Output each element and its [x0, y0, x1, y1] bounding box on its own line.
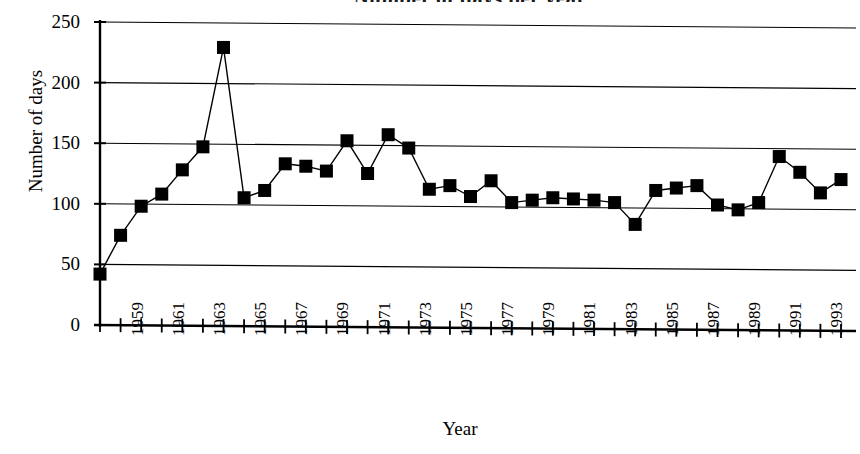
x-axis-title-text: Year [442, 418, 477, 439]
plot-area [0, 0, 860, 454]
data-point-marker [135, 200, 148, 213]
data-point-marker [464, 190, 477, 203]
data-point-marker [649, 184, 662, 197]
data-point-marker [238, 191, 251, 204]
x-tick-label: 1971 [376, 302, 393, 336]
data-point-marker [402, 142, 415, 155]
data-point-marker [155, 188, 168, 201]
x-tick-label: 1973 [417, 302, 434, 336]
x-tick-label: 1969 [334, 302, 351, 336]
data-point-marker [752, 196, 765, 209]
x-tick-label: 1977 [499, 302, 516, 336]
data-point-marker [526, 194, 539, 207]
data-point-marker [485, 174, 498, 187]
data-point-marker [361, 167, 374, 180]
data-point-marker [835, 173, 848, 186]
data-point-marker [196, 140, 209, 153]
data-point-marker [423, 183, 436, 196]
data-point-marker [382, 128, 395, 141]
data-point-marker [94, 268, 107, 281]
grid-line [100, 143, 856, 149]
data-point-marker [773, 150, 786, 163]
data-point-marker [793, 166, 806, 179]
data-point-marker [341, 134, 354, 147]
data-point-marker [588, 194, 601, 207]
data-point-marker [608, 196, 621, 209]
x-tick-label: 1959 [129, 302, 146, 336]
x-tick-label: 1987 [705, 302, 722, 336]
data-point-marker [732, 203, 745, 216]
data-point-marker [690, 179, 703, 192]
x-tick-label: 1991 [787, 302, 804, 336]
data-point-marker [443, 179, 456, 192]
chart-figure: Number of days per year Number of days 0… [0, 0, 860, 454]
data-point-marker [279, 157, 292, 170]
data-point-marker [567, 192, 580, 205]
x-tick-label: 1963 [211, 302, 228, 336]
x-tick-label: 1965 [252, 302, 269, 336]
x-tick-label: 1981 [581, 302, 598, 336]
data-point-marker [670, 182, 683, 195]
grid-line [100, 83, 856, 89]
data-point-marker [814, 186, 827, 199]
data-point-marker [114, 229, 127, 242]
grid-line [100, 22, 856, 28]
grid-line [100, 264, 856, 270]
data-point-marker [258, 184, 271, 197]
x-tick-label: 1989 [746, 302, 763, 336]
x-tick-label: 1979 [540, 302, 557, 336]
data-point-marker [299, 160, 312, 173]
data-point-marker [217, 41, 230, 54]
data-point-marker [711, 199, 724, 212]
data-point-marker [320, 165, 333, 178]
data-point-marker [629, 218, 642, 231]
x-tick-label: 1983 [623, 302, 640, 336]
x-tick-label: 1985 [664, 302, 681, 336]
data-point-marker [505, 196, 518, 209]
data-point-marker [176, 163, 189, 176]
data-point-marker [546, 191, 559, 204]
data-line [100, 47, 841, 274]
x-tick-label: 1993 [828, 302, 845, 336]
x-tick-label: 1967 [293, 302, 310, 336]
x-axis-title: Year [0, 418, 860, 440]
x-tick-label: 1961 [170, 302, 187, 336]
x-tick-label: 1975 [458, 302, 475, 336]
